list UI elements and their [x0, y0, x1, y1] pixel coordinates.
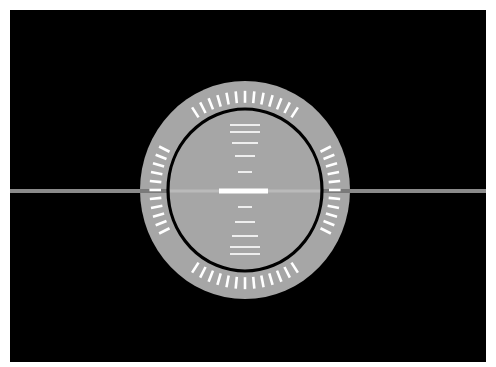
instrument-canvas: [10, 10, 486, 362]
bezel-tick: [236, 277, 237, 289]
bezel-tick: [253, 277, 254, 289]
pitch-line: [238, 171, 252, 173]
pitch-line: [230, 253, 260, 255]
pitch-line: [235, 221, 255, 223]
bezel-tick: [236, 91, 237, 103]
aircraft-symbol-bar: [219, 189, 268, 194]
pitch-line: [230, 131, 260, 133]
attitude-indicator: [10, 10, 486, 362]
pitch-line: [230, 124, 260, 126]
bezel-tick: [329, 198, 341, 199]
center-bar: [219, 189, 268, 194]
bezel-tick: [253, 91, 254, 103]
bezel-tick: [150, 198, 162, 199]
bezel-tick: [150, 181, 162, 182]
bezel-tick: [329, 181, 341, 182]
pitch-line: [232, 235, 258, 237]
pitch-line: [232, 142, 258, 144]
pitch-line: [238, 206, 252, 208]
pitch-line: [230, 246, 260, 248]
pitch-line: [235, 155, 255, 157]
